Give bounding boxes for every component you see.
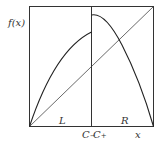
- right-branch-curve: [92, 15, 154, 127]
- y-axis-label: f(x): [8, 18, 25, 28]
- x-axis-label: x: [135, 130, 141, 140]
- c-plus-label: C+: [93, 130, 107, 140]
- region-label-left: L: [59, 116, 66, 126]
- region-label-right: R: [121, 116, 129, 126]
- left-branch-curve: [30, 32, 92, 127]
- c-minus-base: C: [82, 129, 90, 140]
- c-plus-sub: +: [101, 132, 107, 140]
- c-plus-base: C: [93, 129, 101, 140]
